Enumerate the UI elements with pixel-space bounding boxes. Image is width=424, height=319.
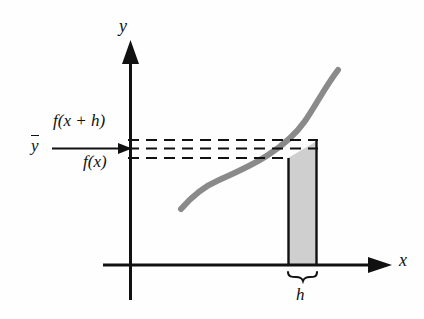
h-brace <box>288 272 317 281</box>
figure-canvas: f(x + h) f(x) y y x h <box>0 0 424 319</box>
label-y-axis: y <box>119 17 127 35</box>
y-axis-arrow-head <box>122 40 139 64</box>
x-axis-arrow-head <box>368 257 392 273</box>
diagram-svg <box>0 0 424 319</box>
label-x-axis: x <box>399 251 407 269</box>
label-h: h <box>296 286 305 303</box>
label-y-bar-text: y <box>31 135 39 154</box>
label-f-x: f(x) <box>83 153 107 170</box>
difference-rectangle <box>288 141 317 265</box>
label-f-x-plus-h: f(x + h) <box>53 112 105 129</box>
label-y-bar: y <box>31 135 39 154</box>
